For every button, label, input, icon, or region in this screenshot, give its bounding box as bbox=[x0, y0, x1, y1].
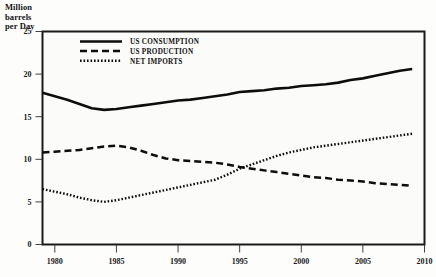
legend-label: US CONSUMPTION bbox=[130, 38, 200, 46]
y-axis-tick-label: 0 bbox=[28, 240, 32, 249]
x-axis-tick-label: 2005 bbox=[355, 257, 371, 266]
x-axis-labels-group: 1980198519901995200020052010 bbox=[47, 257, 433, 266]
legend-label: NET IMPORTS bbox=[130, 58, 183, 66]
line-chart-plot: 0510152025 1980198519901995200020052010 … bbox=[0, 0, 436, 277]
x-axis-tick-label: 1990 bbox=[170, 257, 186, 266]
x-axis-ticks-group bbox=[55, 245, 425, 253]
x-axis-tick-label: 1980 bbox=[47, 257, 63, 266]
y-axis-ticks-group bbox=[36, 32, 43, 245]
legend-label: US PRODUCTION bbox=[130, 48, 194, 56]
x-axis-tick-label: 1985 bbox=[108, 257, 124, 266]
y-axis-title: Million barrels per Day bbox=[5, 3, 35, 32]
y-axis-tick-label: 10 bbox=[24, 155, 32, 164]
y-axis-labels-group: 0510152025 bbox=[24, 27, 32, 249]
x-axis-tick-label: 2000 bbox=[293, 257, 309, 266]
chart-container: Million barrels per Day 0510152025 19801… bbox=[0, 0, 436, 277]
y-axis-tick-label: 15 bbox=[24, 113, 32, 122]
y-axis-tick-label: 20 bbox=[24, 70, 32, 79]
y-axis-tick-label: 5 bbox=[28, 198, 32, 207]
legend-group: US CONSUMPTIONUS PRODUCTIONNET IMPORTS bbox=[80, 38, 200, 65]
plot-frame bbox=[43, 32, 425, 245]
x-axis-tick-label: 2010 bbox=[417, 257, 433, 266]
x-axis-tick-label: 1995 bbox=[232, 257, 248, 266]
